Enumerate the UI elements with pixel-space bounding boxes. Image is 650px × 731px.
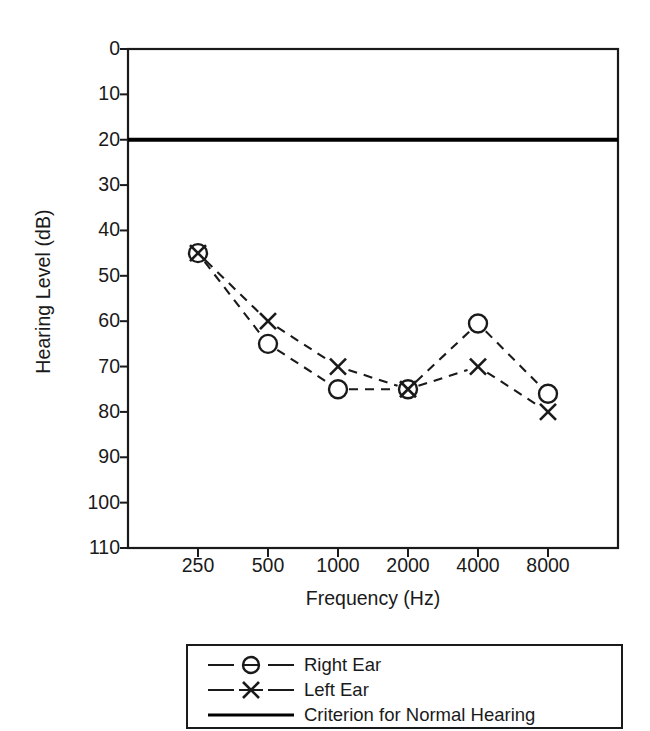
plot-frame [128,49,618,548]
legend: Right EarLeft EarCriterion for Normal He… [186,644,623,729]
data-point-marker-circle [469,314,487,332]
series-left-ear [190,245,556,420]
data-point-marker-circle [259,335,277,353]
series-line-segment [348,370,397,386]
series-line-segment [416,331,470,382]
legend-item-label: Right Ear [304,656,381,675]
legend-sample-right-ear [198,652,304,678]
legend-item-label: Left Ear [304,681,369,700]
plot-area [0,0,650,731]
series-line-segment [205,262,262,335]
legend-item: Right Ear [188,652,621,678]
legend-sample-left-ear [198,677,304,703]
series-line-segment [277,327,329,360]
legend-item: Left Ear [188,677,621,703]
series-right-ear [189,244,557,403]
data-point-marker-circle [329,380,347,398]
legend-item: Criterion for Normal Hearing [188,702,621,728]
series-line-segment [206,261,260,314]
legend-sample-criterion [198,702,304,728]
legend-sample-glyph [198,652,304,678]
data-point-marker-circle [539,385,557,403]
legend-sample-glyph [198,702,304,728]
series-line-segment [418,370,467,386]
legend-sample-glyph [198,677,304,703]
legend-item-label: Criterion for Normal Hearing [304,706,535,725]
audiogram-figure: Hearing Level (dB) 010203040506070809010… [0,0,650,731]
